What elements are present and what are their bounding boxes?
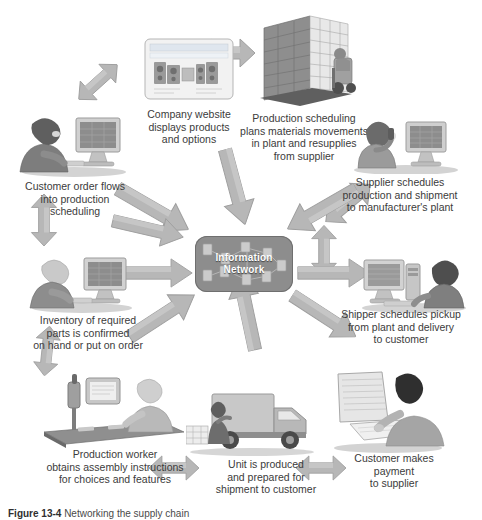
arrow-customer-to-website: [68, 53, 128, 112]
information-network-hub[interactable]: Information Network: [195, 236, 293, 292]
customer-order-caption: Customer order flows into production sch…: [4, 180, 146, 218]
production-worker-caption: Production worker obtains assembly instr…: [28, 448, 202, 486]
warehouse-forklift-icon: [252, 10, 360, 110]
delivery-truck-icon: [186, 386, 318, 458]
customer-payment-caption: Customer makes payment to supplier: [334, 452, 454, 490]
unit-produced-art: [186, 386, 318, 458]
inventory-parts-caption: Inventory of required parts is confirmed…: [10, 314, 166, 352]
hub-label-line1: Information: [215, 252, 272, 264]
person-computer-icon: [26, 252, 138, 314]
figure-caption: Figure 13-4 Networking the supply chain: [8, 508, 468, 520]
figure-caption-label: Figure 13-4: [8, 508, 61, 519]
person-computer-icon: [16, 112, 134, 178]
person-computer-desk-icon: [358, 252, 470, 314]
inventory-parts-art: [26, 252, 138, 314]
person-writing-check-icon: [330, 368, 450, 454]
production-worker-art: [44, 374, 184, 452]
worker-terminal-icon: [44, 374, 184, 452]
production-scheduling-art: [252, 10, 360, 110]
customer-order-art: [16, 112, 134, 178]
supplier-schedules-art: [348, 112, 458, 174]
customer-payment-art: [330, 368, 450, 454]
figure-canvas: Information Network: [0, 0, 482, 520]
figure-caption-text: Networking the supply chain: [64, 508, 189, 519]
company-website-art: [144, 38, 234, 100]
shipper-schedules-caption: Shipper schedules pickup from plant and …: [320, 308, 482, 346]
hub-label-line2: Network: [224, 264, 265, 276]
person-phone-computer-icon: [348, 112, 458, 174]
supplier-schedules-caption: Supplier schedules production and shipme…: [320, 176, 480, 214]
unit-produced-caption: Unit is produced and prepared for shipme…: [196, 458, 336, 496]
webpage-products-icon: [144, 38, 234, 100]
shipper-schedules-art: [358, 252, 470, 314]
hub-label: Information Network: [195, 236, 293, 292]
